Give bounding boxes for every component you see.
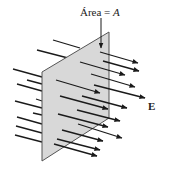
area-label-variable: A — [113, 6, 120, 18]
area-label-prefix: Área = — [80, 6, 113, 18]
surface-area-panel — [42, 32, 109, 161]
area-label: Área = A — [80, 6, 120, 18]
electric-field-label: E — [148, 100, 155, 112]
flux-diagram-svg — [0, 0, 171, 172]
flux-figure: Área = A E — [0, 0, 171, 172]
